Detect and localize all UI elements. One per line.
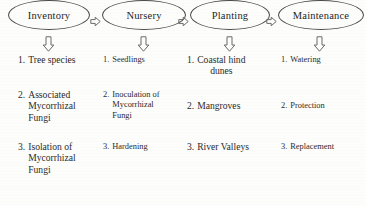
list-item-number: 2. <box>103 90 112 121</box>
list-item-text: Isolation of Mycorrhizal Fungi <box>28 141 75 175</box>
stage-label-nursery: Nursery <box>126 10 161 21</box>
list-item-text: Hardening <box>112 142 147 152</box>
stage-node-maintenance[interactable]: Maintenance <box>278 0 364 30</box>
stage-node-planting[interactable]: Planting <box>190 0 270 30</box>
list-item-number: 1. <box>187 54 197 77</box>
block-arrow-down-icon <box>223 36 236 52</box>
block-arrow-right-icon <box>266 16 277 27</box>
list-item-text: Tree species <box>28 54 75 65</box>
list-item-text: Inoculation of Mycorrhizal Fungi <box>112 90 159 121</box>
list-item: 3. Isolation of Mycorrhizal Fungi <box>18 141 76 175</box>
list-item: 3. River Valleys <box>187 141 249 152</box>
list-item-number: 3. <box>187 141 197 152</box>
list-item: 3. Hardening <box>103 142 148 152</box>
list-item-number: 3. <box>18 141 28 175</box>
block-arrow-right-icon <box>178 16 189 27</box>
list-item-number: 2. <box>281 101 290 111</box>
list-item: 1. Tree species <box>18 54 76 65</box>
list-item: 3. Replacement <box>281 142 334 152</box>
block-arrow-down-icon <box>137 36 150 52</box>
block-arrow-down-icon <box>313 36 326 52</box>
list-item-number: 1. <box>103 55 112 65</box>
list-item: 1. Seedlings <box>103 55 145 65</box>
list-item-number: 1. <box>281 55 290 65</box>
process-flow-diagram: Inventory Nursery Planting Maintenance <box>0 0 365 205</box>
list-item-number: 1. <box>18 54 28 65</box>
block-arrow-down-icon <box>42 36 55 52</box>
stage-node-nursery[interactable]: Nursery <box>102 0 186 30</box>
list-item-text: Protection <box>290 101 324 111</box>
list-item-text: Replacement <box>290 142 334 152</box>
list-item-number: 3. <box>103 142 112 152</box>
list-item: 2. Associated Mycorrhizal Fungi <box>18 89 76 123</box>
list-item: 1. Watering <box>281 55 321 65</box>
list-item: 2. Inoculation of Mycorrhizal Fungi <box>103 90 160 121</box>
stage-label-planting: Planting <box>212 10 249 21</box>
list-item: 2. Mangroves <box>187 100 240 111</box>
stage-label-maintenance: Maintenance <box>293 10 349 21</box>
stage-node-inventory[interactable]: Inventory <box>8 0 90 30</box>
block-arrow-right-icon <box>90 16 101 27</box>
list-item: 2. Protection <box>281 101 325 111</box>
list-item-text: Coastal hind dunes <box>197 54 245 77</box>
list-item-number: 3. <box>281 142 290 152</box>
list-item-text: River Valleys <box>197 141 249 152</box>
list-item-text: Associated Mycorrhizal Fungi <box>28 89 75 123</box>
list-item-number: 2. <box>187 100 197 111</box>
list-item-number: 2. <box>18 89 28 123</box>
list-item-text: Watering <box>290 55 321 65</box>
stage-label-inventory: Inventory <box>28 10 71 21</box>
list-item-text: Mangroves <box>197 100 240 111</box>
list-item: 1. Coastal hind dunes <box>187 54 245 77</box>
list-item-text: Seedlings <box>112 55 145 65</box>
